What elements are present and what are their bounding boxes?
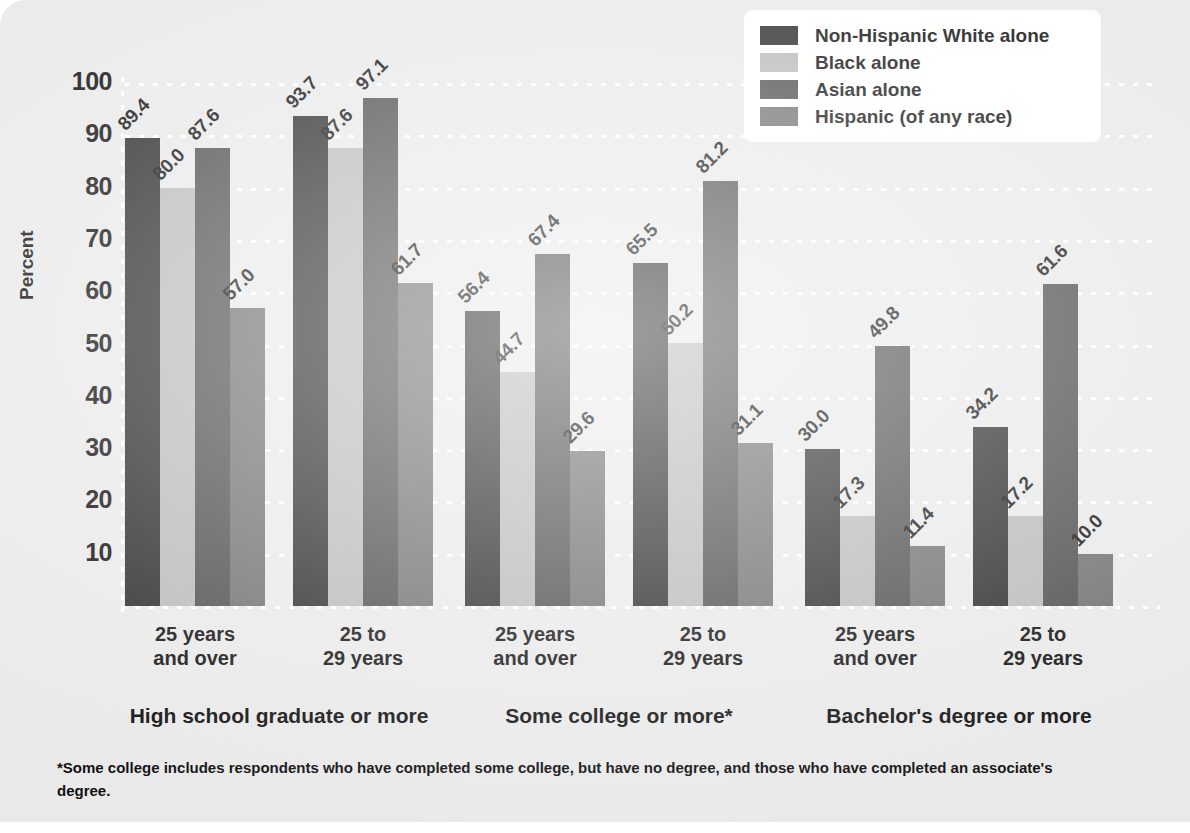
x-axis-age-label: 25 to29 years — [618, 622, 788, 671]
bar-fill — [293, 116, 328, 606]
bar: 31.1 — [738, 443, 773, 606]
bar: 57.0 — [230, 308, 265, 606]
bar-fill — [570, 451, 605, 606]
x-axis-age-label-line2: and over — [790, 646, 960, 670]
bar-value-label: 30.0 — [793, 405, 834, 446]
bar-fill — [398, 283, 433, 606]
bar: 49.8 — [875, 346, 910, 606]
bar-fill — [738, 443, 773, 606]
bar-fill — [125, 138, 160, 606]
x-axis-age-label: 25 to29 years — [278, 622, 448, 671]
legend-item-label: Asian alone — [815, 79, 922, 101]
bar: 30.0 — [805, 449, 840, 606]
legend-item-label: Black alone — [815, 52, 921, 74]
y-axis-line — [121, 77, 124, 612]
legend-item-label: Hispanic (of any race) — [815, 106, 1012, 128]
bar-fill — [195, 148, 230, 606]
x-axis-age-label-line1: 25 to — [958, 622, 1128, 646]
y-axis-tick-label: 40 — [42, 381, 112, 410]
y-axis-tick-label: 60 — [42, 276, 112, 305]
chart-panel: Percent 100908070605040302010 89.480.087… — [0, 0, 1190, 822]
legend-item-label: Non-Hispanic White alone — [815, 25, 1049, 47]
bar-fill — [805, 449, 840, 606]
y-axis-title: Percent — [16, 230, 38, 300]
bar-fill — [500, 372, 535, 606]
chart-screenshot: Percent 100908070605040302010 89.480.087… — [0, 0, 1190, 833]
legend-swatch-icon — [760, 26, 798, 45]
bar-value-label: 34.2 — [961, 383, 1002, 424]
bar-group: 56.444.767.429.6 — [465, 83, 605, 606]
bar: 87.6 — [195, 148, 230, 606]
x-axis-age-label-line2: 29 years — [618, 646, 788, 670]
y-axis-tick-label: 50 — [42, 329, 112, 358]
bar-fill — [840, 516, 875, 606]
x-axis-age-label-line1: 25 to — [278, 622, 448, 646]
bar-value-label: 97.1 — [351, 54, 392, 95]
bar: 50.2 — [668, 343, 703, 606]
bar-fill — [160, 188, 195, 606]
bar: 61.7 — [398, 283, 433, 606]
bar-fill — [363, 98, 398, 606]
bar: 61.6 — [1043, 284, 1078, 606]
legend-item: Asian alone — [760, 76, 1087, 103]
x-axis-age-label-line1: 25 years — [790, 622, 960, 646]
bar-group: 65.550.281.231.1 — [633, 83, 773, 606]
legend-item: Non-Hispanic White alone — [760, 22, 1087, 49]
bar: 97.1 — [363, 98, 398, 606]
bar-value-label: 67.4 — [523, 210, 564, 251]
y-axis-tick-label: 20 — [42, 485, 112, 514]
bar-value-label: 89.4 — [113, 95, 154, 136]
chart-legend: Non-Hispanic White alone Black alone Asi… — [744, 10, 1101, 142]
bar-fill — [328, 148, 363, 606]
chart-footnote: *Some college includes respondents who h… — [57, 757, 1057, 802]
bar-fill — [875, 346, 910, 606]
x-axis-group-label: Bachelor's degree or more — [759, 704, 1159, 728]
bar-value-label: 61.6 — [1031, 240, 1072, 281]
bar-group: 34.217.261.610.0 — [973, 83, 1113, 606]
bar-group: 93.787.697.161.7 — [293, 83, 433, 606]
x-axis-age-label: 25 yearsand over — [790, 622, 960, 671]
bar-fill — [973, 427, 1008, 606]
bar-fill — [633, 263, 668, 606]
y-axis-tick-label: 70 — [42, 224, 112, 253]
bar: 17.3 — [840, 516, 875, 606]
bar-value-label: 81.2 — [691, 137, 732, 178]
bar: 10.0 — [1078, 554, 1113, 606]
legend-swatch-icon — [760, 80, 798, 99]
x-axis-age-label-line1: 25 to — [618, 622, 788, 646]
x-axis-age-label-line2: and over — [450, 646, 620, 670]
y-axis-tick-label: 80 — [42, 172, 112, 201]
bar: 65.5 — [633, 263, 668, 606]
bar-fill — [910, 546, 945, 606]
x-axis-age-label: 25 to29 years — [958, 622, 1128, 671]
bar-value-label: 56.4 — [453, 267, 494, 308]
bar: 17.2 — [1008, 516, 1043, 606]
x-axis-age-label: 25 yearsand over — [110, 622, 280, 671]
bar-value-label: 65.5 — [621, 220, 662, 261]
x-axis-age-label: 25 yearsand over — [450, 622, 620, 671]
bar-group: 30.017.349.811.4 — [805, 83, 945, 606]
x-axis-age-label-line1: 25 years — [110, 622, 280, 646]
bar: 34.2 — [973, 427, 1008, 606]
bar: 81.2 — [703, 181, 738, 606]
x-axis-age-label-line1: 25 years — [450, 622, 620, 646]
y-axis-tick-label: 100 — [42, 67, 112, 96]
bar-fill — [668, 343, 703, 606]
legend-item: Black alone — [760, 49, 1087, 76]
x-axis-age-label-line2: 29 years — [958, 646, 1128, 670]
y-axis-tick-label: 10 — [42, 538, 112, 567]
bar-fill — [703, 181, 738, 606]
y-axis-tick-label: 90 — [42, 119, 112, 148]
bar-fill — [1078, 554, 1113, 606]
legend-swatch-icon — [760, 107, 798, 126]
bar-value-label: 87.6 — [183, 104, 224, 145]
bar: 44.7 — [500, 372, 535, 606]
bar-fill — [1043, 284, 1078, 606]
bar: 89.4 — [125, 138, 160, 606]
bar-fill — [1008, 516, 1043, 606]
plot-area: 89.480.087.657.093.787.697.161.756.444.7… — [125, 83, 1160, 606]
bar: 29.6 — [570, 451, 605, 606]
bar: 87.6 — [328, 148, 363, 606]
legend-item: Hispanic (of any race) — [760, 103, 1087, 130]
bar-group: 89.480.087.657.0 — [125, 83, 265, 606]
